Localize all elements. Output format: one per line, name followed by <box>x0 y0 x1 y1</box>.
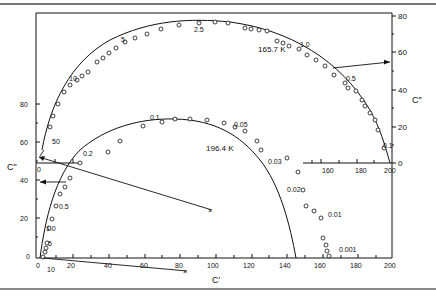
top-x-ticks <box>55 159 374 163</box>
cole-cole-plot: 80 60 40 20 0 C" 0 160 180 200 80 60 40 … <box>0 0 436 297</box>
left-axis-title: C" <box>7 162 17 172</box>
freq-label: 0.02 <box>287 186 301 193</box>
bottom-x-tick-label: 40 <box>104 262 112 269</box>
right-tick-label: 20 <box>398 123 407 132</box>
freq-label: 1.0 <box>46 225 56 232</box>
left-tick-label: 0 <box>26 253 30 260</box>
freq-label: 1.0 <box>300 41 310 48</box>
bottom-x-tick-label: 80 <box>175 262 183 269</box>
left-tick-label: 40 <box>20 177 28 184</box>
bottom-x-labels: 0 20 40 60 80 100 120 140 160 180 200 C' <box>36 262 396 285</box>
freq-label: 0.01 <box>328 211 342 218</box>
freq-label: 0.001 <box>339 246 357 253</box>
right-axis-labels: 80 60 40 20 0 C" <box>398 12 422 168</box>
freq-label: 0.2 <box>83 150 93 157</box>
right-tick-label: 40 <box>398 86 407 95</box>
top-x-tick-label: 180 <box>355 167 367 174</box>
top-zero-label: 0 <box>37 166 41 173</box>
freq-label: 5 <box>48 240 52 247</box>
freq-label: 0.05 <box>234 121 248 128</box>
freq-label: 50 <box>52 138 60 145</box>
freq-label: 10 <box>69 75 77 82</box>
freq-label: 10 <box>47 266 55 273</box>
right-tick-label: 80 <box>398 12 407 21</box>
x-axis-title: C' <box>212 275 220 285</box>
cross-marker-icon: × <box>183 268 187 275</box>
left-tick-label: 20 <box>20 215 28 222</box>
right-axis-ticks <box>392 16 396 163</box>
freq-label: 0.1 <box>383 142 393 149</box>
arrowheads <box>39 60 390 185</box>
construction-lines <box>39 62 390 271</box>
left-tick-label: 60 <box>20 139 28 146</box>
bottom-x-tick-label: 120 <box>243 262 255 269</box>
freq-label: 0.1 <box>150 114 160 121</box>
bottom-x-tick-label: 180 <box>350 262 362 269</box>
bottom-x-tick-label: 20 <box>67 262 75 269</box>
bottom-freq-labels: 10 5 1.0 0.5 0.2 0.1 0.05 0.03 0.02 0.01… <box>46 114 357 273</box>
freq-label: 0.5 <box>59 203 69 210</box>
freq-label: 0.5 <box>346 75 356 82</box>
bottom-temp-label: 196.4 K <box>206 144 234 153</box>
bottom-x-tick-label: 160 <box>314 262 326 269</box>
bottom-x-tick-label: 100 <box>207 262 219 269</box>
bottom-x-tick-label: 60 <box>140 262 148 269</box>
top-x-tick-label: 200 <box>384 167 396 174</box>
bottom-zero-label: 0 <box>36 262 40 269</box>
top-fit-curve <box>42 20 390 163</box>
right-axis-title: C" <box>412 95 422 105</box>
cross-marker-icon: × <box>208 207 212 214</box>
freq-label: 2.5 <box>194 26 204 33</box>
top-x-tick-label: 160 <box>322 167 334 174</box>
top-data-points <box>48 20 386 150</box>
top-plot-frame <box>36 13 392 258</box>
left-axis-labels: 80 60 40 20 0 C" <box>7 101 30 260</box>
left-tick-label: 80 <box>20 101 28 108</box>
bottom-x-tick-label: 140 <box>279 262 291 269</box>
right-tick-label: 60 <box>398 48 407 57</box>
right-tick-label: 0 <box>398 159 403 168</box>
freq-label: 5 <box>121 36 125 43</box>
bottom-x-tick-label: 200 <box>384 262 396 269</box>
top-temp-label: 165.7 K <box>258 45 286 54</box>
freq-label: 0.03 <box>268 158 282 165</box>
